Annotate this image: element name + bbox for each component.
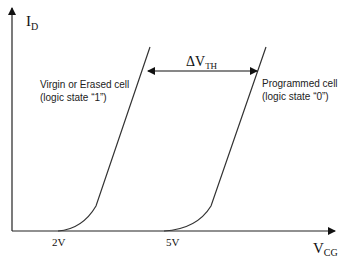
curve-erased — [58, 47, 150, 231]
curve-programmed — [164, 47, 266, 231]
tick-label-5v: 5V — [166, 236, 180, 248]
x-axis-label: VCG — [313, 240, 338, 258]
y-axis-label: ID — [26, 13, 38, 32]
programmed-cell-label: Programmed cell — [262, 78, 338, 89]
tick-label-2v: 2V — [52, 236, 66, 248]
diagram-canvas: ID VCG 2V 5V Virgin or Erased cell (logi… — [0, 0, 345, 259]
programmed-cell-state: (logic state “0”) — [262, 91, 329, 102]
iv-characteristic-diagram: ID VCG 2V 5V Virgin or Erased cell (logi… — [0, 0, 345, 259]
erased-cell-label: Virgin or Erased cell — [40, 79, 129, 90]
delta-vth-label: ΔVTH — [186, 54, 218, 71]
erased-cell-state: (logic state “1”) — [40, 92, 107, 103]
